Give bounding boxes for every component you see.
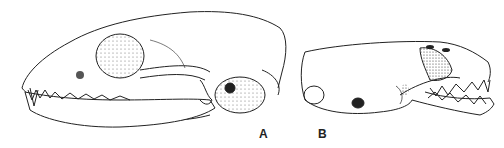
skull-illustration: [0, 0, 504, 148]
panel-label-b: B: [318, 127, 327, 141]
panel-label-a: A: [259, 127, 268, 141]
skull-a-drawing: [22, 12, 286, 128]
skull-b-drawing: [301, 41, 494, 115]
